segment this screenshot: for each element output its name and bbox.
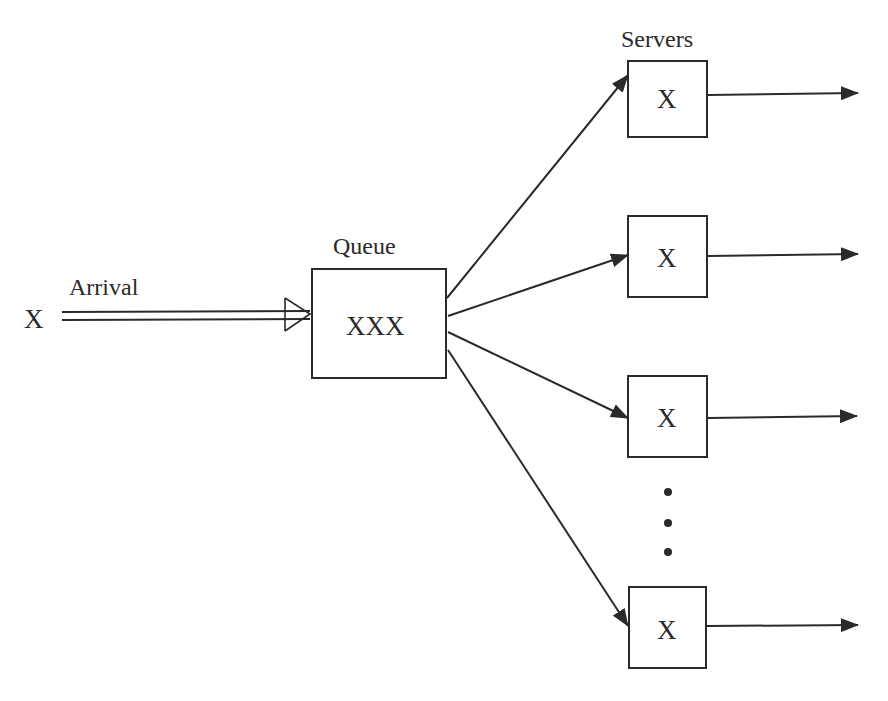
vertical-ellipsis-icon	[664, 488, 672, 556]
server-2-content: X	[657, 245, 677, 272]
queue-label: Queue	[333, 234, 396, 258]
queue-to-server-arrows	[447, 75, 628, 626]
servers-label: Servers	[621, 27, 693, 51]
queue-content: XXX	[346, 313, 405, 340]
server-output-arrows	[707, 93, 858, 626]
arrival-label: Arrival	[69, 275, 138, 299]
open-arrowhead-icon	[285, 298, 310, 331]
arrow-to-server-4	[448, 350, 628, 626]
server-1-content: X	[657, 86, 677, 113]
server-3-content: X	[657, 405, 677, 432]
server-4-content: X	[657, 617, 677, 644]
diagram-canvas	[0, 0, 888, 701]
arrival-arrow	[62, 298, 310, 331]
arrow-to-server-3	[448, 332, 628, 418]
arrival-symbol: X	[24, 306, 44, 333]
